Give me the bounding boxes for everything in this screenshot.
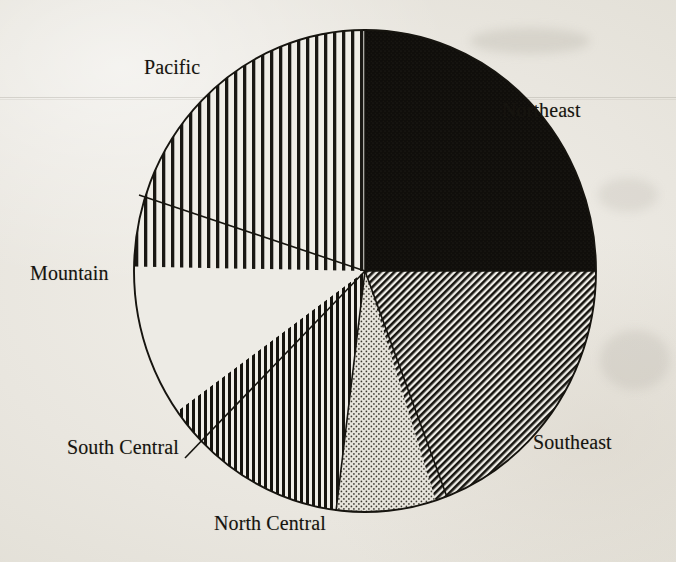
pie-label-northeast: Northeast [502,100,581,120]
pie-label-southeast: Southeast [533,432,612,452]
pie-label-north-central: North Central [214,513,326,533]
pie-chart: Northeast Southeast North Central South … [0,0,676,562]
pie-slice-northeast[interactable] [365,0,676,271]
pie-slice-southeast[interactable] [365,271,676,562]
pie-label-pacific: Pacific [144,57,200,77]
pie-label-south-central: South Central [67,437,179,457]
pie-slice-pacific[interactable] [5,0,365,271]
pie-label-mountain: Mountain [30,263,109,283]
